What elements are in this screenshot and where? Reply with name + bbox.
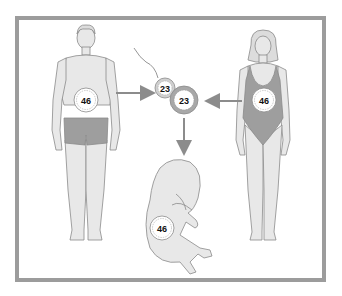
male-chromosome-badge: 46: [74, 88, 98, 112]
male-count-label: 46: [81, 96, 91, 106]
female-count-label: 46: [259, 96, 269, 106]
egg-cell: 23: [170, 86, 198, 114]
female-chromosome-badge: 46: [252, 88, 276, 112]
female-figure: [236, 30, 290, 240]
sperm-cell: 23: [134, 48, 175, 98]
male-figure: [52, 25, 120, 240]
fetus-chromosome-badge: 46: [150, 216, 174, 240]
egg-count-label: 23: [179, 96, 189, 106]
inheritance-diagram: 23 23 46 46 46: [0, 0, 342, 296]
sperm-count-label: 23: [160, 84, 170, 94]
fetus-figure: [146, 160, 212, 274]
fetus-count-label: 46: [157, 224, 167, 234]
